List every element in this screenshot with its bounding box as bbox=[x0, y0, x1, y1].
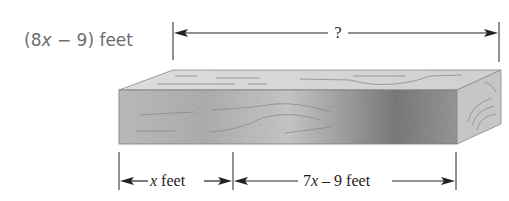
wood-board bbox=[119, 70, 501, 144]
bottom-dimensions: x feet 7x – 9 feet bbox=[119, 152, 456, 190]
x-feet-label: x feet bbox=[149, 172, 186, 189]
top-dimension: ? bbox=[173, 22, 499, 62]
unknown-length-label: ? bbox=[334, 24, 341, 41]
board-diagram: ? bbox=[0, 0, 509, 201]
seven-x-minus-nine-label: 7x – 9 feet bbox=[303, 172, 371, 189]
board-top-face bbox=[119, 70, 501, 90]
